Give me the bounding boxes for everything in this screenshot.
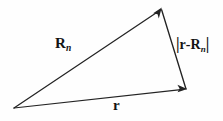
label-vector-r: r <box>113 98 120 113</box>
vector-triangle-figure: Rn |r-Rn| r <box>0 0 223 121</box>
vector-Rn-line <box>14 11 159 108</box>
label-r-symbol: r <box>113 97 120 113</box>
label-diff-symbol-R: R <box>191 37 201 52</box>
vector-diagram-canvas <box>0 0 223 121</box>
label-diff-close-bar: | <box>206 35 210 52</box>
label-vector-difference: |r-Rn| <box>176 36 209 54</box>
label-Rn-symbol: R <box>55 35 66 51</box>
label-vector-Rn: Rn <box>55 36 71 53</box>
arrowhead-Rn-icon <box>153 8 162 19</box>
vector-r-line <box>14 89 183 108</box>
diagram-lines <box>14 10 186 108</box>
label-Rn-subscript: n <box>66 43 71 53</box>
